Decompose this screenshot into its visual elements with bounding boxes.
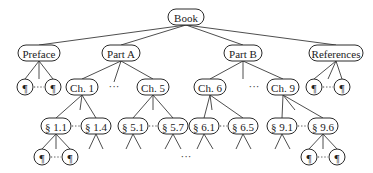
tree-edge <box>153 95 173 118</box>
tree-edge <box>42 134 56 149</box>
node-label: § 1.4 <box>85 121 108 133</box>
branch-stub <box>96 134 103 149</box>
book-structure-tree: BookPrefacePart APart BReferences¶¶Ch. 1… <box>0 0 373 173</box>
pilcrow-icon: ¶ <box>312 82 317 94</box>
tree-edge <box>210 95 243 118</box>
branch-stub <box>204 134 213 149</box>
tree-edge <box>56 134 70 149</box>
node-label: § 6.5 <box>232 121 255 133</box>
tree-node-part-a: Part A <box>102 45 140 61</box>
tree-edge <box>204 95 210 118</box>
tree-edge <box>210 61 243 79</box>
tree-node-ref-p2: ¶ <box>334 79 350 95</box>
ellipsis-parta-dots: ··· <box>109 80 120 92</box>
tree-edge <box>282 95 283 118</box>
branch-stub <box>210 95 212 110</box>
tree-node-s5-1: § 5.1 <box>118 118 148 134</box>
branch-stub <box>165 134 173 149</box>
tree-node-ch9: Ch. 9 <box>267 79 299 95</box>
tree-node-s1-1: § 1.1 <box>41 118 71 134</box>
pilcrow-icon: ¶ <box>68 152 73 164</box>
tree-edge <box>39 25 186 45</box>
node-label: Preface <box>23 48 56 60</box>
tree-node-s96-p1: ¶ <box>301 149 317 165</box>
pilcrow-icon: ¶ <box>335 152 340 164</box>
branch-stub <box>173 134 181 149</box>
tree-edge <box>121 25 186 45</box>
branch-stub <box>283 95 295 110</box>
pilcrow-icon: ¶ <box>51 82 56 94</box>
pilcrow-icon: ¶ <box>40 152 45 164</box>
node-label: § 1.1 <box>45 121 67 133</box>
branch-stub <box>133 134 141 149</box>
node-label: References <box>312 48 361 60</box>
tree-node-ch1: Ch. 1 <box>66 79 98 95</box>
tree-node-s6-1: § 6.1 <box>189 118 219 134</box>
ellipsis-bottom-dots: ··· <box>181 150 192 162</box>
tree-node-s9-6: § 9.6 <box>308 118 338 134</box>
nodes-layer: BookPrefacePart APart BReferences¶¶Ch. 1… <box>17 9 363 165</box>
tree-edge <box>336 61 342 79</box>
tree-node-preface: Preface <box>18 45 60 61</box>
tree-edge <box>121 61 153 79</box>
branch-stub <box>236 134 243 149</box>
branch-stub <box>89 134 96 149</box>
pilcrow-icon: ¶ <box>340 82 345 94</box>
tree-edge <box>56 95 82 118</box>
branch-stub <box>126 134 133 149</box>
tree-edge <box>82 95 96 118</box>
node-label: Ch. 9 <box>271 82 295 94</box>
node-label: § 6.1 <box>193 121 215 133</box>
tree-node-pref-p1: ¶ <box>17 79 33 95</box>
node-label: Ch. 6 <box>198 82 222 94</box>
tree-node-book: Book <box>168 9 204 25</box>
node-label: § 9.6 <box>312 121 335 133</box>
tree-node-s5-7: § 5.7 <box>158 118 188 134</box>
tree-edge <box>82 61 121 79</box>
node-label: Ch. 1 <box>70 82 94 94</box>
tree-edge <box>243 61 283 79</box>
branch-stub <box>282 134 290 149</box>
tree-edge <box>186 25 243 45</box>
tree-edge <box>186 25 336 45</box>
node-label: Ch. 5 <box>141 82 165 94</box>
tree-node-s1-4: § 1.4 <box>81 118 111 134</box>
tree-node-part-b: Part B <box>224 45 262 61</box>
tree-edge <box>323 134 337 149</box>
node-label: Part A <box>107 48 135 60</box>
ellipsis-partb-dots: ··· <box>249 80 260 92</box>
tree-node-s11-p1: ¶ <box>34 149 50 165</box>
node-label: § 5.7 <box>162 121 185 133</box>
tree-node-pref-p2: ¶ <box>45 79 61 95</box>
node-label: Part B <box>229 48 257 60</box>
node-label: § 5.1 <box>122 121 144 133</box>
tree-node-references: References <box>309 45 363 61</box>
tree-edge <box>314 61 336 79</box>
tree-edge <box>39 61 53 79</box>
tree-edge <box>25 61 39 79</box>
branch-stub <box>275 134 282 149</box>
node-label: Book <box>174 12 198 24</box>
tree-node-s9-1: § 9.1 <box>267 118 297 134</box>
pilcrow-icon: ¶ <box>23 82 28 94</box>
tree-node-ch5: Ch. 5 <box>137 79 169 95</box>
tree-node-ch6: Ch. 6 <box>194 79 226 95</box>
tree-node-ref-p1: ¶ <box>306 79 322 95</box>
tree-node-s96-p2: ¶ <box>329 149 345 165</box>
node-label: § 9.1 <box>271 121 293 133</box>
pilcrow-icon: ¶ <box>307 152 312 164</box>
branch-stub <box>80 95 82 110</box>
branch-stub <box>197 134 204 149</box>
branch-stub <box>243 134 251 149</box>
tree-node-s11-p2: ¶ <box>62 149 78 165</box>
tree-node-s6-5: § 6.5 <box>228 118 258 134</box>
tree-edge <box>133 95 153 118</box>
tree-edge <box>309 134 323 149</box>
tree-edge <box>283 95 323 118</box>
